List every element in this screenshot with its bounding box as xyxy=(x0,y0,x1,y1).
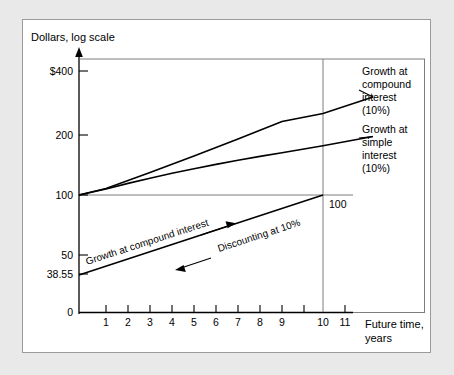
x-tick-label-3: 3 xyxy=(147,316,153,328)
x-tick-label-1: 1 xyxy=(103,316,109,328)
chart-svg: Dollars, log scale $400 200 100 50 38.55… xyxy=(23,20,430,352)
series-line-simple-interest xyxy=(79,137,373,196)
legend-simple-interest: Growth at simple interest (10%) xyxy=(362,123,408,174)
x-tick-label-10: 10 xyxy=(317,316,329,328)
x-tick-label-9: 9 xyxy=(279,316,285,328)
y-tick-label-400: $400 xyxy=(50,65,74,77)
y-tick-marks xyxy=(79,71,88,274)
annotation-arrow-left xyxy=(175,258,211,272)
legend-compound-line3: interest xyxy=(362,91,397,103)
y-tick-label-3855: 38.55 xyxy=(47,268,73,280)
legend-simple-line3: interest xyxy=(362,149,397,161)
x-axis-label-line2: years xyxy=(365,332,392,344)
figure-panel: Dollars, log scale $400 200 100 50 38.55… xyxy=(22,19,431,353)
x-tick-label-6: 6 xyxy=(213,316,219,328)
y-axis-label: Dollars, log scale xyxy=(31,31,115,43)
legend-compound-line1: Growth at xyxy=(362,65,408,77)
y-axis-arrowhead xyxy=(75,47,83,57)
legend-simple-line4: (10%) xyxy=(362,162,390,174)
x-tick-label-5: 5 xyxy=(191,316,197,328)
x-axis-label-line1: Future time, xyxy=(365,318,424,330)
legend-compound-line2: compound xyxy=(362,78,411,90)
x-tick-label-8: 8 xyxy=(257,316,263,328)
legend-simple-line1: Growth at xyxy=(362,123,408,135)
x-tick-label-4: 4 xyxy=(169,316,175,328)
x-tick-label-11: 11 xyxy=(340,316,351,328)
y-tick-label-0: 0 xyxy=(67,306,73,318)
y-tick-label-100: 100 xyxy=(55,189,73,201)
legend-compound-line4: (10%) xyxy=(362,104,390,116)
y-tick-label-200: 200 xyxy=(55,129,73,141)
series-line-compound-interest xyxy=(79,97,373,195)
x-tick-label-7: 7 xyxy=(235,316,241,328)
legend-compound-interest: Growth at compound interest (10%) xyxy=(362,65,411,116)
y-tick-label-50: 50 xyxy=(61,249,73,261)
x-tick-marks xyxy=(106,305,345,312)
value-label-100-at-year10: 100 xyxy=(329,198,347,210)
x-tick-label-2: 2 xyxy=(125,316,131,328)
legend-simple-line2: simple xyxy=(362,136,393,148)
annotation-growth-compound-interest: Growth at compound interest xyxy=(84,217,210,267)
